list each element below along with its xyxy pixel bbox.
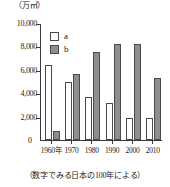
bar-a-2010 bbox=[146, 118, 153, 140]
bar-b-1990 bbox=[114, 44, 121, 140]
legend-label-b: b bbox=[64, 45, 69, 54]
bar-a-1990 bbox=[106, 103, 113, 140]
chart-caption: （数字でみる日本の100年による） bbox=[0, 170, 170, 181]
legend-swatch-a bbox=[50, 32, 59, 41]
y-axis-tick-label: 8,000 bbox=[20, 43, 37, 51]
x-axis-tick-label: 2010 bbox=[141, 146, 165, 155]
bar-b-1980 bbox=[93, 52, 100, 140]
bar-a-2000 bbox=[126, 118, 133, 140]
bar-a-1980 bbox=[85, 97, 92, 140]
legend-swatch-b bbox=[50, 45, 59, 54]
bar-b-1970 bbox=[73, 74, 80, 140]
bar-b-1960年 bbox=[53, 131, 60, 140]
x-axis-tick-mark bbox=[71, 141, 72, 144]
x-axis-tick-mark bbox=[152, 141, 153, 144]
bar-chart-figure: （万㎡） a b 0 （数字でみる日本の100年による） 2,0004,0006… bbox=[0, 0, 170, 187]
x-axis-tick-mark bbox=[51, 141, 52, 144]
bar-b-2000 bbox=[134, 44, 141, 140]
y-axis-tick-label: 2,000 bbox=[20, 114, 37, 122]
y-axis-tick-label: 10,000 bbox=[17, 20, 37, 28]
y-axis-zero-label: 0 bbox=[28, 137, 32, 145]
legend-label-a: a bbox=[64, 32, 68, 41]
bar-a-1960年 bbox=[45, 65, 52, 140]
legend-item-a: a bbox=[50, 30, 69, 43]
y-axis-tick-label: 6,000 bbox=[20, 67, 37, 75]
y-axis-unit-label: （万㎡） bbox=[14, 1, 45, 11]
x-axis-tick-mark bbox=[132, 141, 133, 144]
legend-item-b: b bbox=[50, 43, 69, 56]
x-axis-tick-mark bbox=[91, 141, 92, 144]
bar-b-2010 bbox=[154, 78, 161, 140]
bar-a-1970 bbox=[65, 82, 72, 140]
x-axis-tick-mark bbox=[112, 141, 113, 144]
chart-legend: a b bbox=[50, 30, 69, 56]
y-axis-tick-label: 4,000 bbox=[20, 90, 37, 98]
